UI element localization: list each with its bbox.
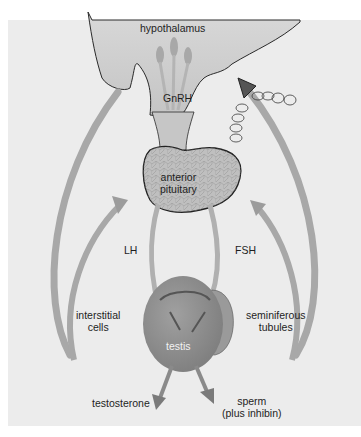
- seminiferous-tubules-label: seminiferous tubules: [246, 309, 306, 333]
- sperm-arrow: [196, 366, 208, 394]
- lh-label: LH: [124, 244, 137, 256]
- seminiferous-tubules-label-line2: tubules: [246, 321, 306, 333]
- anterior-pituitary-label: anterior pituitary: [160, 171, 197, 195]
- hypothalamus-label: hypothalamus: [140, 22, 205, 34]
- diagram-art: [0, 0, 361, 437]
- interstitial-cells-label: interstitial cells: [76, 309, 120, 333]
- testis-shape: [143, 276, 233, 372]
- seminiferous-tubules-label-line1: seminiferous: [246, 309, 306, 321]
- sperm-label: sperm (plus inhibin): [222, 395, 282, 419]
- testis-label: testis: [166, 340, 191, 352]
- pituitary-stalk: [152, 112, 194, 150]
- sperm-label-line2: (plus inhibin): [222, 407, 282, 419]
- anterior-pituitary-label-line1: anterior: [160, 171, 197, 183]
- anterior-pituitary-label-line2: pituitary: [160, 183, 197, 195]
- interstitial-cells-label-line1: interstitial: [76, 309, 120, 321]
- gnrh-label: GnRH: [163, 92, 192, 104]
- inhibin-coil: [230, 92, 296, 142]
- testosterone-arrow: [160, 366, 172, 398]
- fsh-label: FSH: [235, 244, 256, 256]
- testosterone-label: testosterone: [92, 397, 150, 409]
- interstitial-cells-label-line2: cells: [76, 321, 120, 333]
- feedback-arrow-right-inner: [258, 208, 297, 360]
- sperm-label-line1: sperm: [222, 395, 282, 407]
- feedback-arrow-left-inner: [70, 205, 120, 360]
